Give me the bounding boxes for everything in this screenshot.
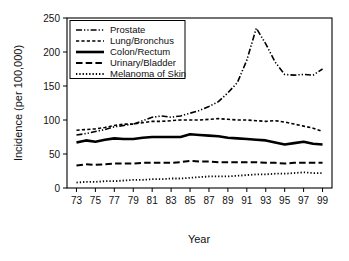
x-tick-label: 73 [71, 195, 83, 206]
legend-label-1: Lung/Bronchus [110, 35, 174, 46]
x-tick-label: 81 [147, 195, 159, 206]
y-tick-label: 200 [43, 47, 60, 58]
x-tick-label: 77 [109, 195, 121, 206]
x-tick-label: 91 [241, 195, 253, 206]
legend-label-2: Colon/Rectum [110, 46, 170, 57]
x-tick-label: 85 [184, 195, 196, 206]
x-tick-label: 75 [90, 195, 102, 206]
incidence-line-chart: 050100150200250 737577798183858789919395… [0, 0, 349, 261]
x-tick-label: 79 [128, 195, 140, 206]
x-tick-label: 89 [222, 195, 234, 206]
y-tick-label: 0 [54, 183, 60, 194]
y-tick-label: 150 [43, 81, 60, 92]
legend-label-0: Prostate [110, 24, 145, 35]
x-tick-label: 97 [298, 195, 310, 206]
y-axis-title: Incidence (per 100,000) [12, 45, 24, 161]
y-tick-label: 50 [49, 149, 61, 160]
legend-label-3: Urinary/Bladder [110, 57, 176, 68]
x-tick-label: 99 [317, 195, 329, 206]
x-tick-label: 95 [279, 195, 291, 206]
legend-label-4: Melanoma of Skin [110, 68, 186, 79]
x-tick-label: 83 [166, 195, 178, 206]
chart-legend: ProstateLung/BronchusColon/RectumUrinary… [70, 21, 186, 80]
x-tick-label: 87 [203, 195, 215, 206]
y-tick-label: 250 [43, 13, 60, 24]
x-axis-title: Year [188, 233, 211, 245]
chart-canvas: 050100150200250 737577798183858789919395… [0, 0, 349, 261]
y-tick-label: 100 [43, 115, 60, 126]
x-tick-label: 93 [260, 195, 272, 206]
